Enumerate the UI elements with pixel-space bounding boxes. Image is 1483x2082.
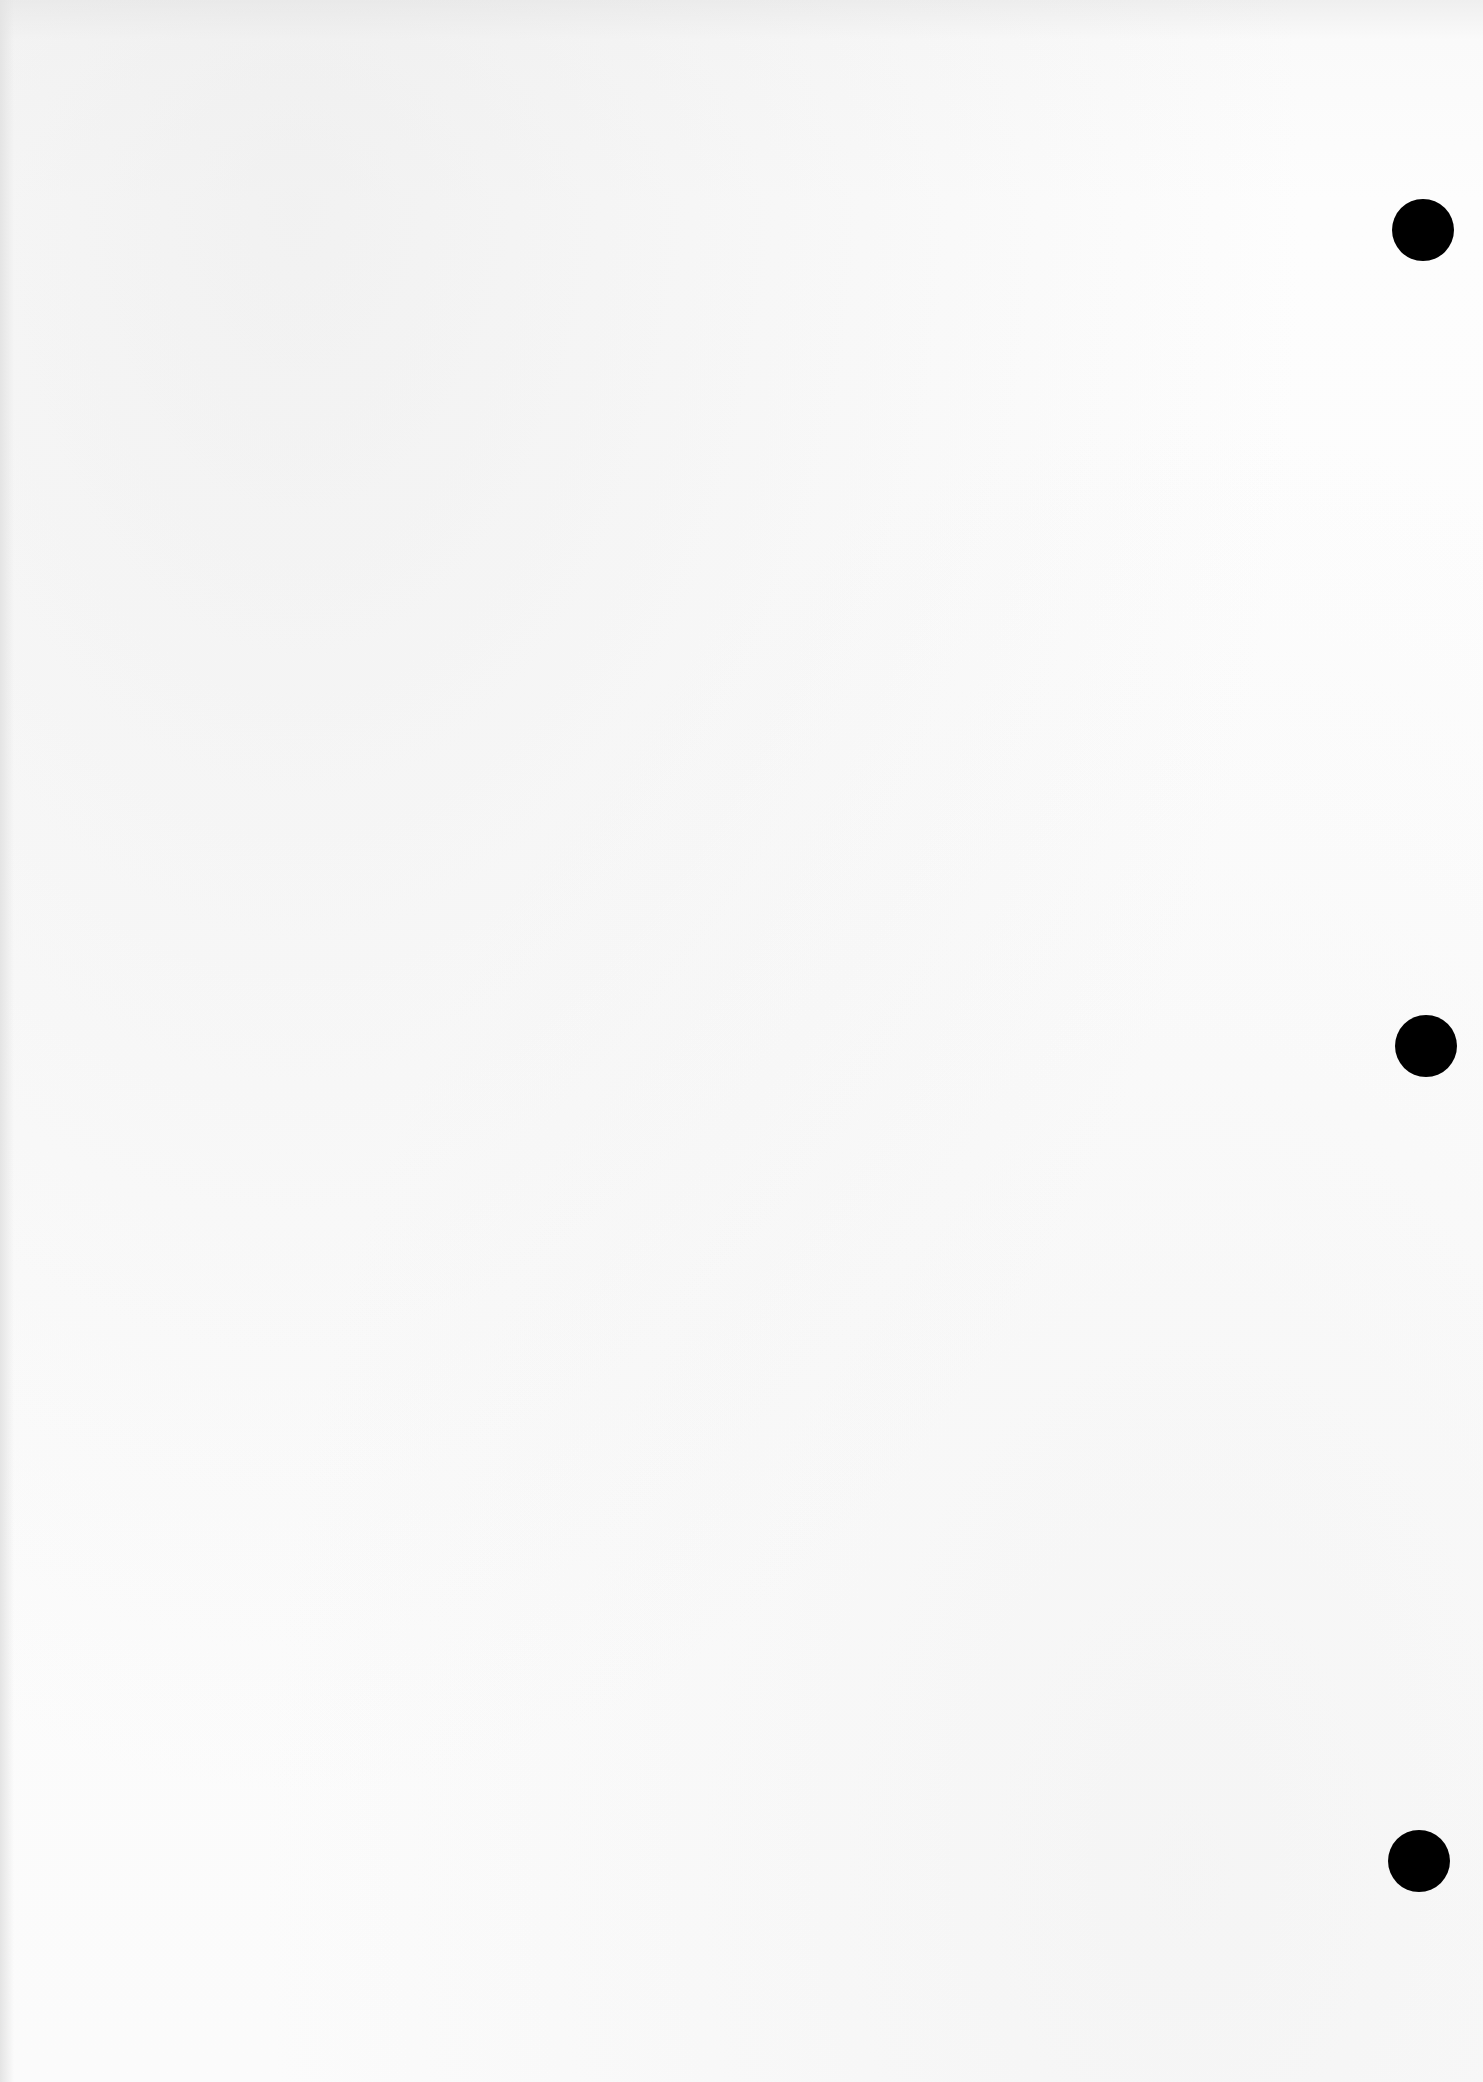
punch-hole-bottom [1388, 1830, 1450, 1892]
punch-hole-middle [1395, 1015, 1457, 1077]
page-edge-shadow [0, 0, 14, 2082]
punch-hole-top [1392, 199, 1454, 261]
scanned-page [0, 0, 1483, 2082]
